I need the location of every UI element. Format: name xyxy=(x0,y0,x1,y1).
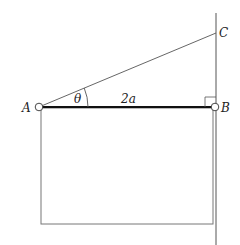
label-c: C xyxy=(219,26,228,40)
geometry-diagram: A B C θ 2a xyxy=(0,0,240,245)
pivot-a xyxy=(35,103,43,111)
label-b: B xyxy=(220,101,230,115)
angle-arc xyxy=(84,88,88,107)
rectangle-body xyxy=(41,108,213,224)
pivot-b xyxy=(211,103,219,111)
label-length: 2a xyxy=(120,92,136,106)
label-a: A xyxy=(21,101,31,115)
label-theta: θ xyxy=(74,92,82,106)
